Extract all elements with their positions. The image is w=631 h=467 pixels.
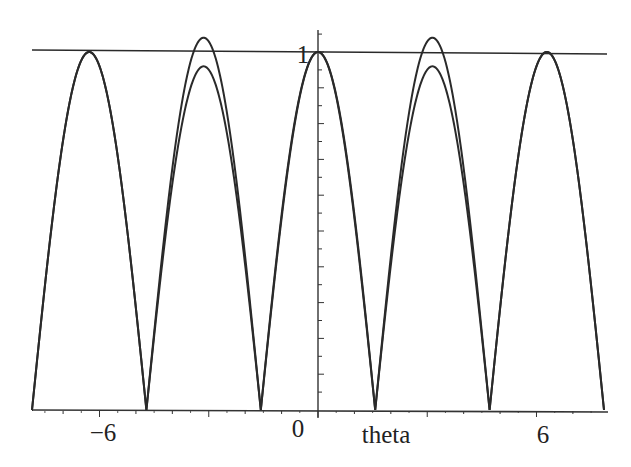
plot-curves xyxy=(32,38,607,410)
x-tick-label-6: 6 xyxy=(537,421,550,448)
x-tick-label-neg6: −6 xyxy=(90,419,117,446)
x-axis-label: theta xyxy=(362,421,411,448)
x-axis xyxy=(32,410,608,412)
y-tick-label-1: 1 xyxy=(297,41,310,68)
chart-canvas: −6 0 theta 6 1 xyxy=(0,0,631,467)
x-tick-label-0: 0 xyxy=(292,415,305,442)
axes xyxy=(32,30,608,418)
